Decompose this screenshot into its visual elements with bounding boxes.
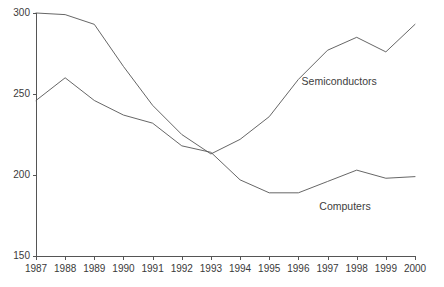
y-tick-label: 300 — [2, 7, 30, 19]
series-label-semiconductors: Semiconductors — [302, 75, 377, 87]
x-tick-label: 2000 — [398, 263, 432, 275]
y-tick-label: 200 — [2, 169, 30, 181]
series-label-computers: Computers — [319, 200, 370, 212]
series-line-computers — [36, 78, 415, 193]
y-tick-marks — [33, 14, 36, 257]
x-tick-marks — [37, 257, 416, 260]
data-series-group — [36, 13, 415, 193]
axes-group — [36, 13, 416, 257]
chart-plot-area — [0, 0, 444, 287]
y-tick-label: 150 — [2, 250, 30, 262]
line-chart: 150200250300 198719881989199019911992199… — [0, 0, 444, 287]
y-tick-label: 250 — [2, 88, 30, 100]
